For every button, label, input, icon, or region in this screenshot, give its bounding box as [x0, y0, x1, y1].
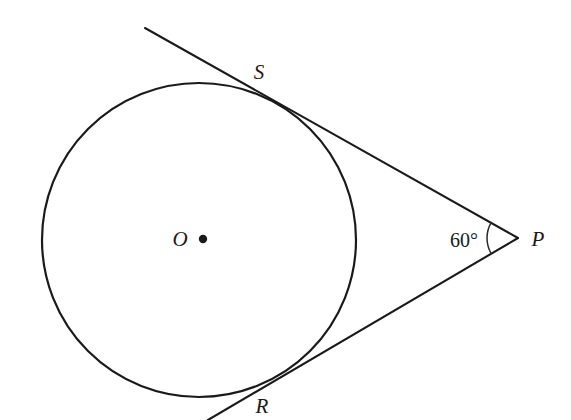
- diagram-canvas: [0, 0, 571, 420]
- center-point-dot: [199, 235, 207, 243]
- point-label-p: P: [532, 229, 545, 250]
- angle-measure-label: 60°: [450, 230, 478, 250]
- angle-arc-60: [487, 223, 491, 254]
- clipped-text-artifact-1: ·: [112, 0, 118, 3]
- point-label-o: O: [172, 229, 187, 250]
- clipped-text-artifact-2: ·: [308, 0, 314, 3]
- point-label-r: R: [256, 396, 269, 417]
- upper-tangent-line: [145, 28, 518, 238]
- lower-tangent-line: [208, 238, 518, 420]
- geometry-diagram: · · O S R P 60°: [0, 0, 571, 420]
- point-label-s: S: [254, 62, 265, 83]
